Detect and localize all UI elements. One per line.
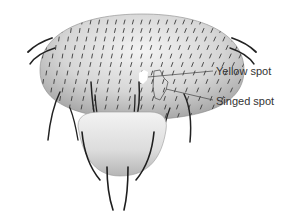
singed-spot-label: Singed spot bbox=[216, 96, 274, 107]
yellow-spot-label: Yellow spot bbox=[216, 66, 271, 77]
thorax-diagram bbox=[0, 0, 288, 219]
